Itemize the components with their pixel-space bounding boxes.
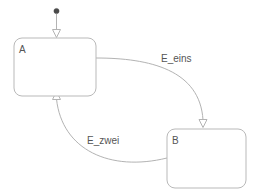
transition-label-e-eins: E_eins	[161, 53, 192, 64]
arrowhead-into-state-a-top	[53, 30, 61, 38]
state-b-box[interactable]	[167, 129, 246, 188]
transition-label-e-zwei: E_zwei	[87, 135, 119, 146]
initial-pseudostate-node[interactable]	[54, 8, 59, 13]
transition-b-to-a-path	[57, 99, 168, 162]
state-a-label: A	[19, 44, 26, 55]
transition-a-to-b-path	[96, 58, 203, 120]
state-node-b[interactable]: B	[167, 129, 246, 188]
state-diagram-canvas: A B E_eins E_zwei	[0, 0, 255, 194]
transition-b-to-a[interactable]	[53, 92, 168, 163]
state-diagram-svg: A B E_eins E_zwei	[0, 0, 255, 194]
state-node-a[interactable]: A	[14, 38, 96, 96]
arrowhead-into-state-b-top	[199, 120, 207, 128]
state-a-box[interactable]	[14, 38, 96, 96]
transition-initial-to-a[interactable]	[53, 14, 61, 38]
transition-a-to-b[interactable]	[96, 58, 207, 128]
state-b-label: B	[172, 135, 179, 146]
